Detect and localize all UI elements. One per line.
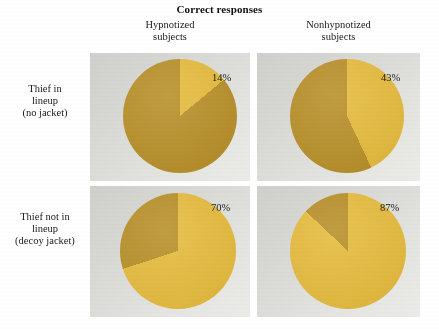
row-label-decoy-jacket-line3: (decoy jacket)	[0, 235, 90, 247]
column-header-nonhypnotized: Nonhypnotized subjects	[257, 19, 420, 42]
row-label-decoy-jacket-line2: lineup	[0, 223, 90, 235]
percent-label-nonhypnotized-no-jacket: 43%	[381, 72, 400, 83]
percent-label-nonhypnotized-decoy-jacket: 87%	[380, 202, 399, 213]
column-header-hypnotized-line1: Hypnotized	[146, 19, 195, 30]
column-header-hypnotized-line2: subjects	[90, 31, 250, 43]
column-header-hypnotized: Hypnotized subjects	[90, 19, 250, 42]
row-label-no-jacket-line2: lineup	[0, 95, 90, 107]
row-label-no-jacket-line3: (no jacket)	[0, 107, 90, 119]
row-label-decoy-jacket: Thief not in lineup (decoy jacket)	[0, 211, 90, 246]
column-header-nonhypnotized-line2: subjects	[257, 31, 420, 43]
row-label-decoy-jacket-line1: Thief not in	[0, 211, 90, 223]
row-label-no-jacket: Thief in lineup (no jacket)	[0, 83, 90, 118]
column-header-nonhypnotized-line1: Nonhypnotized	[306, 19, 371, 30]
page-title: Correct responses	[0, 3, 439, 15]
row-label-no-jacket-line1: Thief in	[0, 83, 90, 95]
percent-label-hypnotized-decoy-jacket: 70%	[211, 202, 230, 213]
percent-label-hypnotized-no-jacket: 14%	[212, 72, 231, 83]
